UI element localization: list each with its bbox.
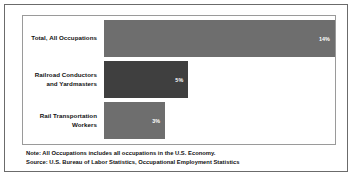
figure-outer-frame: Total, All Occupations 14% Railroad Cond… bbox=[4, 4, 348, 172]
bar-track: 3% bbox=[104, 102, 335, 139]
bar-rail-transportation-workers[interactable]: 3% bbox=[104, 102, 165, 139]
bar-row: Total, All Occupations 14% bbox=[23, 20, 335, 57]
footer-note: Note: All Occupations includes all occup… bbox=[26, 149, 326, 158]
bar-total-all-occupations[interactable]: 14% bbox=[104, 20, 335, 57]
category-label-line1: Total, All Occupations bbox=[31, 34, 97, 42]
chart-figure: Total, All Occupations 14% Railroad Cond… bbox=[0, 0, 355, 180]
bar-row: Rail Transportation Workers 3% bbox=[23, 102, 335, 139]
bar-value-label: 3% bbox=[152, 102, 160, 139]
category-label-line2: and Yardmasters bbox=[35, 80, 97, 88]
category-label-line1: Rail Transportation bbox=[40, 112, 97, 120]
bar-track: 5% bbox=[104, 61, 335, 98]
category-label-total-all-occupations: Total, All Occupations bbox=[23, 20, 101, 57]
bar-value-label: 5% bbox=[175, 61, 183, 98]
bar-railroad-conductors-and-yardmasters[interactable]: 5% bbox=[104, 61, 188, 98]
category-label-line1: Railroad Conductors bbox=[35, 71, 97, 79]
category-label-line2: Workers bbox=[40, 121, 97, 129]
category-label-rail-transportation-workers: Rail Transportation Workers bbox=[23, 102, 101, 139]
bar-track: 14% bbox=[104, 20, 335, 57]
footer-source: Source: U.S. Bureau of Labor Statistics,… bbox=[26, 158, 326, 167]
plot-area: Total, All Occupations 14% Railroad Cond… bbox=[22, 15, 336, 145]
bar-value-label: 14% bbox=[319, 20, 330, 57]
chart-footer: Note: All Occupations includes all occup… bbox=[26, 149, 326, 167]
bar-row: Railroad Conductors and Yardmasters 5% bbox=[23, 61, 335, 98]
category-label-railroad-conductors-and-yardmasters: Railroad Conductors and Yardmasters bbox=[23, 61, 101, 98]
